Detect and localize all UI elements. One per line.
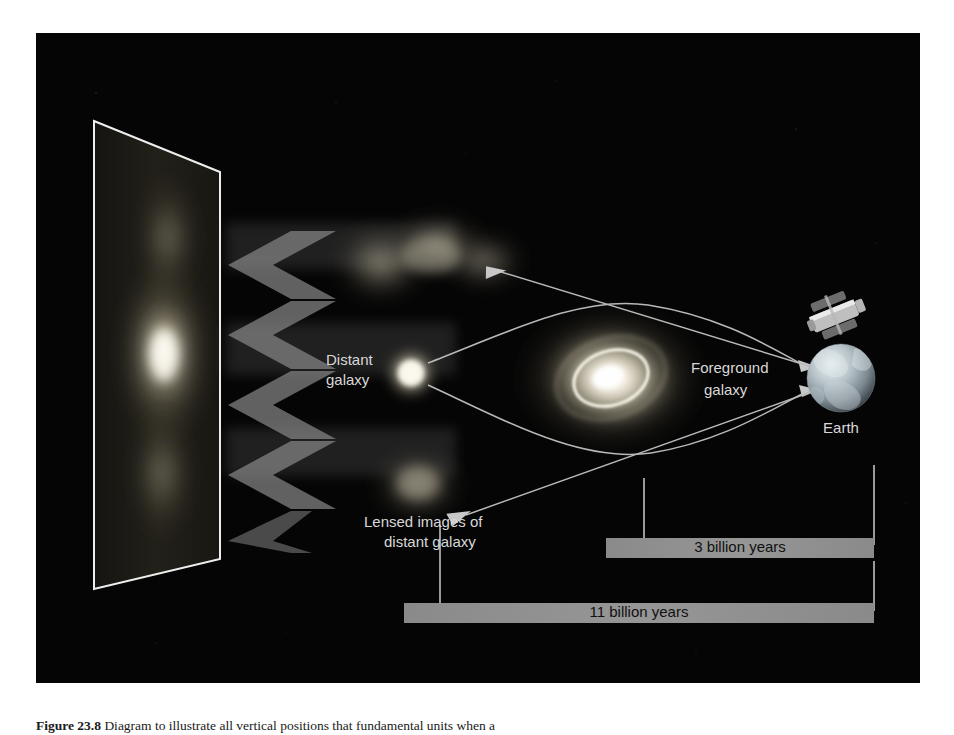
label-lensed-images: Lensed images of distant galaxy (364, 513, 483, 550)
figure-caption-text: Diagram to illustrate all vertical posit… (104, 718, 495, 733)
label-foreground-galaxy-line2: galaxy (704, 381, 748, 398)
image-plane-group (94, 121, 220, 589)
label-lensed-images-line1: Lensed images of (364, 513, 483, 530)
bar-3-billion-years: 3 billion years (606, 538, 874, 558)
distant-galaxy (385, 347, 437, 399)
figure-caption: Figure 23.8 Diagram to illustrate all ve… (36, 717, 920, 735)
distance-bracket-3gyr (644, 465, 874, 545)
figure-caption-number: Figure 23.8 (36, 718, 101, 733)
foreground-galaxy (516, 306, 706, 450)
earth-group (807, 344, 875, 412)
label-earth: Earth (823, 419, 859, 436)
distance-bracket-11gyr (440, 525, 874, 611)
page-root: 3 billion years 11 billion years Distant… (0, 0, 954, 735)
figure-plate: 3 billion years 11 billion years Distant… (36, 33, 920, 683)
bar-11-billion-years-label: 11 billion years (590, 603, 689, 620)
label-distant-galaxy-line2: galaxy (326, 371, 370, 388)
label-distant-galaxy-line1: Distant (326, 351, 374, 368)
bar-11-billion-years: 11 billion years (404, 603, 874, 623)
lensed-image-bottom (376, 455, 460, 515)
gravitational-lensing-diagram: 3 billion years 11 billion years Distant… (36, 33, 920, 683)
bar-3-billion-years-label: 3 billion years (694, 538, 786, 555)
chevron-ray-arrows (228, 231, 336, 553)
label-lensed-images-line2: distant galaxy (384, 533, 476, 550)
hubble-space-telescope-icon (800, 283, 871, 344)
label-foreground-galaxy-line1: Foreground (691, 359, 769, 376)
